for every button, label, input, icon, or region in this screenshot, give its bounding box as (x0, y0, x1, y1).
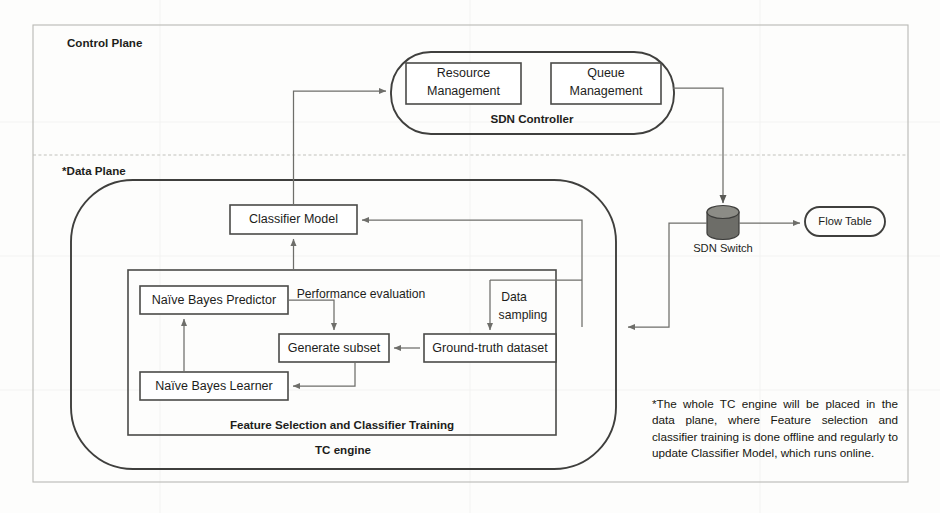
data-sampling-label-line1: Data (501, 290, 527, 304)
flow-table-label: Flow Table (818, 215, 871, 227)
control-plane-label: Control Plane (67, 36, 143, 49)
ground-truth-dataset-label: Ground-truth dataset (432, 341, 548, 355)
sdn-controller-label: SDN Controller (490, 112, 574, 125)
naive-bayes-predictor-label: Naïve Bayes Predictor (152, 293, 276, 307)
resource-management-label-line2: Management (427, 84, 500, 98)
footnote-text: *The whole TC engine will be placed in t… (652, 396, 898, 462)
generate-subset-label: Generate subset (288, 341, 381, 355)
queue-management-label-line2: Management (570, 84, 643, 98)
edge-trunk-to-classifier-model (362, 220, 582, 327)
sdn-switch-label: SDN Switch (693, 242, 753, 254)
queue-management-label-line1: Queue (587, 66, 625, 80)
sdn-switch[interactable] (707, 206, 739, 240)
classifier-model-label: Classifier Model (249, 212, 338, 226)
edge-classifier-model-to-controller (294, 91, 387, 205)
edge-predictor-to-generate-subset (288, 300, 334, 330)
data-plane-label: *Data Plane (62, 164, 126, 177)
performance-evaluation-label: Performance evaluation (297, 287, 426, 301)
diagram-page: Control Plane *Data Plane Resource Manag… (0, 0, 940, 513)
naive-bayes-learner-label: Naïve Bayes Learner (155, 379, 272, 393)
feature-selection-training-label: Feature Selection and Classifier Trainin… (230, 418, 454, 431)
resource-management-label-line1: Resource (437, 66, 491, 80)
edge-sdn-switch-to-tc-engine (628, 223, 707, 327)
edge-controller-to-sdn-switch (673, 88, 723, 203)
data-sampling-label-line2: sampling (499, 308, 548, 322)
tc-engine-label: TC engine (315, 443, 372, 456)
edge-generate-subset-to-learner (293, 362, 355, 386)
